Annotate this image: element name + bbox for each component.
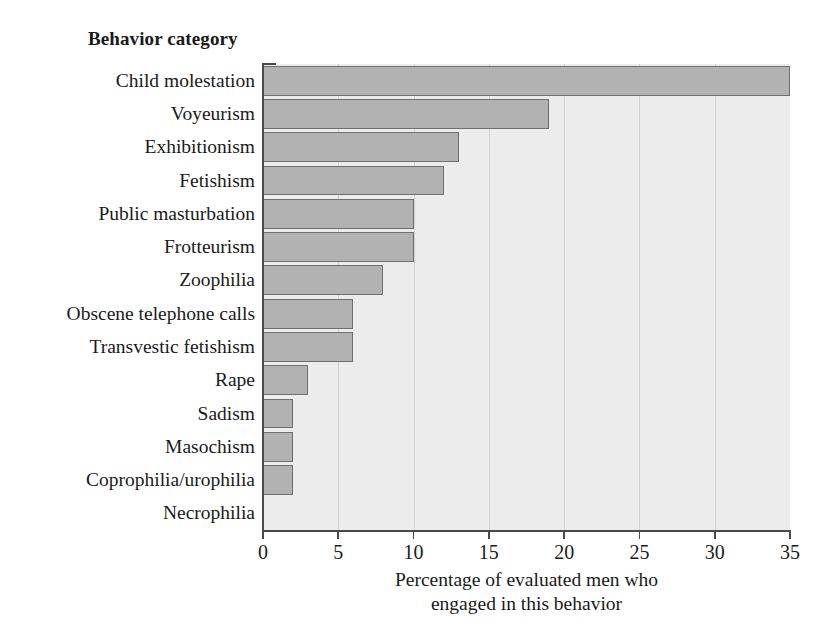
bar [263,432,293,462]
y-axis-category-label: Rape [215,370,255,390]
x-tick-label-35: 35 [780,541,800,564]
bar [263,232,414,262]
x-tick-0 [262,531,264,539]
y-axis-category-label: Necrophilia [163,503,255,523]
x-tick-30 [714,531,716,539]
y-axis-category-label: Child molestation [116,71,255,91]
x-tick-label-0: 0 [258,541,268,564]
x-axis-label-line-1: Percentage of evaluated men who [395,569,658,590]
bar [263,332,353,362]
x-tick-5 [337,531,339,539]
x-tick-label-5: 5 [333,541,343,564]
y-axis-category-label: Sadism [198,404,255,424]
x-tick-35 [789,531,791,539]
y-axis-category-label: Exhibitionism [144,137,255,157]
bar [263,166,444,196]
bar [263,199,414,229]
y-axis-line [262,64,264,531]
gridline-15 [489,64,490,530]
bar [263,399,293,429]
x-axis-line [262,530,791,532]
x-tick-20 [563,531,565,539]
y-axis-category-label: Frotteurism [164,237,255,257]
bar-chart-figure: Behavior category 05101520253035 Child m… [0,0,836,641]
x-tick-label-20: 20 [554,541,574,564]
y-axis-category-label: Zoophilia [179,270,255,290]
y-axis-category-label: Voyeurism [171,104,255,124]
y-axis-category-label: Public masturbation [98,204,255,224]
gridline-20 [564,64,565,530]
bar [263,299,353,329]
y-axis-category-label: Obscene telephone calls [67,304,255,324]
y-axis-category-label: Coprophilia/urophilia [86,470,255,490]
bar [263,99,549,129]
x-tick-label-30: 30 [705,541,725,564]
x-tick-15 [488,531,490,539]
gridline-25 [639,64,640,530]
y-axis-category-label: Fetishism [179,171,255,191]
y-axis-top-cap [262,63,276,65]
y-axis-category-label: Masochism [165,437,255,457]
x-axis-label: Percentage of evaluated men who engaged … [263,568,790,616]
x-tick-label-10: 10 [404,541,424,564]
x-tick-label-15: 15 [479,541,499,564]
bar [263,465,293,495]
chart-title: Behavior category [88,28,238,50]
y-axis-category-label: Transvestic fetishism [89,337,255,357]
x-tick-label-25: 25 [629,541,649,564]
x-axis-label-line-2: engaged in this behavior [263,592,790,616]
x-tick-10 [413,531,415,539]
x-tick-25 [639,531,641,539]
bar [263,365,308,395]
bar [263,265,383,295]
gridline-30 [715,64,716,530]
bar [263,66,790,96]
bar [263,132,459,162]
